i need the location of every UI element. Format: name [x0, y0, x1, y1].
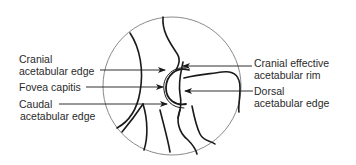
leader-lines-right: [183, 66, 253, 91]
field-of-view-circle: [103, 17, 241, 155]
label-fovea-capitis: Fovea capitis: [19, 82, 81, 94]
label-cranial-acetabular-edge: Cranial acetabular edge: [19, 54, 94, 77]
label-line-1: Fovea capitis: [19, 82, 81, 94]
label-line-2: acetabular rim: [254, 70, 329, 82]
label-line-1: Cranial effective: [254, 58, 329, 70]
label-line-2: acetabular edge: [19, 66, 94, 78]
label-cranial-effective-acetabular-rim: Cranial effective acetabular rim: [254, 58, 329, 81]
label-line-1: Dorsal: [254, 86, 329, 98]
label-line-1: Caudal: [19, 99, 95, 111]
label-line-1: Cranial: [19, 54, 94, 66]
label-caudal-acetabular-edge: Caudal acetabular edge: [19, 99, 95, 122]
label-line-2: acetabular edge: [19, 111, 95, 123]
label-line-2: acetabular edge: [254, 98, 329, 110]
label-dorsal-acetabular-edge: Dorsal acetabular edge: [254, 86, 329, 109]
